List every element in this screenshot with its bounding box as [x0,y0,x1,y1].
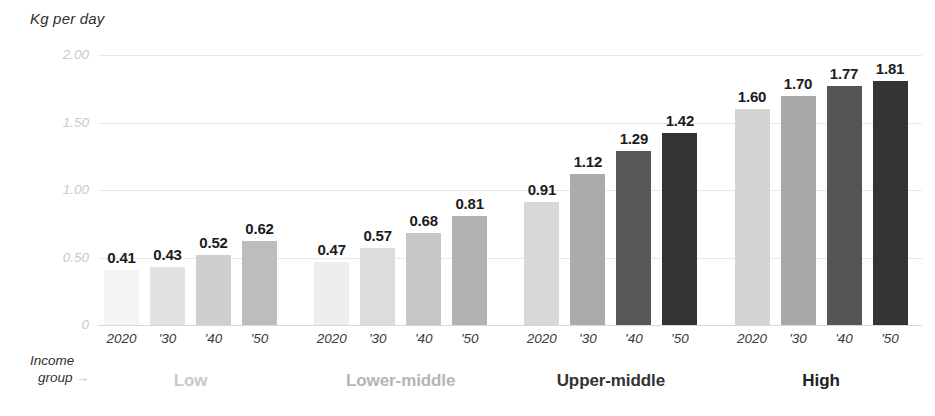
x-tick-label: '30 [369,331,387,346]
gridline: 2.00 [98,55,922,56]
income-group-caption: Income group→ [30,352,100,387]
axis-baseline: 0 [98,325,922,326]
x-tick-label: '50 [881,331,899,346]
group-label: Upper-middle [557,371,665,391]
group-label: Low [174,371,208,391]
x-tick-label: 2020 [527,331,557,346]
bar-value-label: 1.29 [620,130,648,147]
x-tick-label: '30 [789,331,807,346]
y-tick-label: 0.50 [63,251,89,265]
y-tick-label: 1.50 [63,116,89,130]
bar: 1.70 [781,96,816,326]
bar: 0.43 [150,267,185,325]
y-axis-title: Kg per day [30,10,105,27]
x-tick-label: '40 [415,331,433,346]
x-tick-label: '30 [159,331,177,346]
income-caption-line2: group [30,369,73,386]
bar-value-label: 0.81 [455,195,483,212]
x-tick-label: '40 [205,331,223,346]
arrow-right-icon: → [73,370,90,385]
x-tick-label: '50 [251,331,269,346]
bar-value-label: 0.43 [153,246,181,263]
bar-value-label: 0.47 [317,241,345,258]
x-tick-label: '40 [625,331,643,346]
group-label: High [802,371,839,391]
y-tick-label: 1.00 [63,183,89,197]
x-tick-label: 2020 [106,331,136,346]
x-tick-label: '30 [579,331,597,346]
bar-chart: Kg per day Income group→ 00.501.001.502.… [0,0,935,416]
bar: 0.62 [242,241,277,325]
bar-value-label: 0.52 [199,234,227,251]
bar-value-label: 1.42 [666,112,694,129]
bar: 0.91 [524,202,559,325]
bar: 0.47 [314,262,349,325]
income-caption-line1: Income [30,353,74,368]
bar-value-label: 1.60 [738,88,766,105]
plot-area: 00.501.001.502.000.410.430.520.620.470.5… [98,55,922,325]
bar: 0.52 [196,255,231,325]
bar: 0.81 [452,216,487,325]
bar-value-label: 0.68 [409,212,437,229]
bar: 0.68 [406,233,441,325]
bar-value-label: 0.91 [528,181,556,198]
bar-value-label: 0.57 [363,227,391,244]
bar-value-label: 1.81 [876,60,904,77]
x-tick-label: 2020 [737,331,767,346]
bar-value-label: 1.77 [830,65,858,82]
bar: 1.81 [873,81,908,325]
x-tick-label: '50 [671,331,689,346]
bar: 1.60 [735,109,770,325]
x-tick-label: 2020 [317,331,347,346]
x-tick-label: '40 [835,331,853,346]
bar-value-label: 1.70 [784,75,812,92]
bar: 1.12 [570,174,605,325]
x-tick-label: '50 [461,331,479,346]
bar: 0.41 [104,270,139,325]
group-label: Lower-middle [346,371,455,391]
y-tick-label: 0 [81,318,89,332]
y-tick-label: 2.00 [63,48,89,62]
bar: 0.57 [360,248,395,325]
bar: 1.29 [616,151,651,325]
bar: 1.42 [662,133,697,325]
bar-value-label: 0.41 [107,249,135,266]
bar-value-label: 0.62 [245,220,273,237]
bar: 1.77 [827,86,862,325]
bar-value-label: 1.12 [574,153,602,170]
